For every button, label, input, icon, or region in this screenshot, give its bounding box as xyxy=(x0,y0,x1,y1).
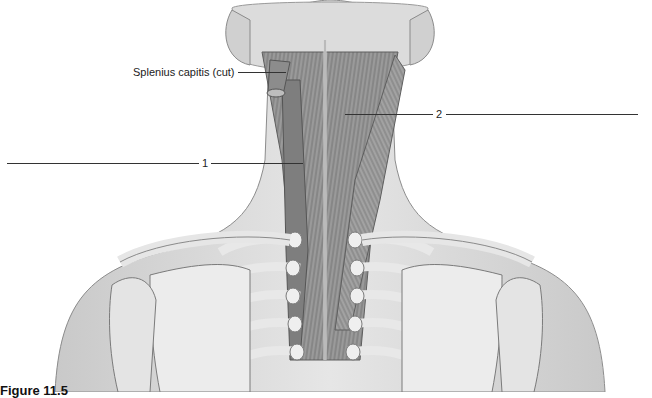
right-ear xyxy=(410,10,434,65)
leader-line-splenius xyxy=(238,72,286,73)
leader-line-2-right xyxy=(446,114,638,115)
right-scapula xyxy=(402,265,502,392)
label-2: 2 xyxy=(436,108,442,120)
figure-caption: Figure 11.5 xyxy=(0,383,68,398)
label-1: 1 xyxy=(202,157,208,169)
leader-line-2-left xyxy=(345,114,433,115)
left-scapula xyxy=(150,265,250,392)
right-humerus xyxy=(496,278,542,392)
leader-line-1-left xyxy=(7,163,199,164)
leader-line-1-right xyxy=(211,163,303,164)
left-ear xyxy=(226,10,250,65)
left-humerus xyxy=(110,278,156,392)
label-splenius-capitis: Splenius capitis (cut) xyxy=(133,66,235,78)
